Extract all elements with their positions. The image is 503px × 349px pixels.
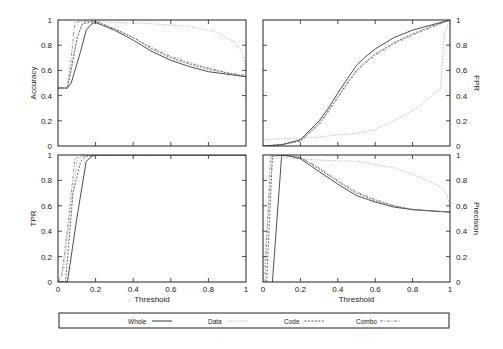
- panel-bottom-right: 00.20.40.60.8100.20.40.60.81ThresholdPre…: [261, 151, 481, 304]
- series-line-whole: [58, 155, 246, 282]
- y-tick-label: 0: [456, 278, 461, 287]
- chart-canvas: 00.20.40.60.81Accuracy00.20.40.60.81FPR0…: [0, 0, 503, 349]
- series-line-data: [263, 158, 450, 283]
- legend-label: Whole: [128, 318, 147, 325]
- panel-top-left: 00.20.40.60.81Accuracy: [29, 16, 246, 151]
- y-tick-label: 0.2: [41, 253, 53, 262]
- series-group: [58, 21, 246, 88]
- series-line-whole: [272, 155, 450, 282]
- panel-bottom-left: 00.20.40.60.8100.20.40.60.81ThresholdTPR: [29, 151, 249, 304]
- legend-label: Code: [284, 318, 300, 325]
- x-axis-label: Threshold: [339, 295, 375, 304]
- y-tick-label: 0.4: [456, 227, 468, 236]
- y-tick-label: 0.6: [41, 202, 53, 211]
- y-axis-label: TPR: [29, 210, 38, 226]
- y-tick-label: 0.8: [456, 41, 468, 50]
- x-tick-label: 0: [261, 285, 266, 294]
- y-tick-label: 1: [456, 151, 461, 160]
- y-tick-label: 0.2: [41, 117, 53, 126]
- x-tick-label: 0.8: [407, 285, 419, 294]
- x-axis-label: Threshold: [134, 295, 170, 304]
- x-tick-label: 0.6: [370, 285, 382, 294]
- panels: 00.20.40.60.81Accuracy00.20.40.60.81FPR0…: [29, 16, 481, 304]
- series-group: [263, 20, 450, 146]
- plot-frame: [263, 155, 450, 282]
- series-line-data: [263, 20, 450, 140]
- y-tick-label: 0.8: [456, 176, 468, 185]
- series-line-code: [263, 20, 450, 146]
- x-tick-label: 1: [448, 285, 453, 294]
- y-axis-label: Accuracy: [29, 67, 38, 100]
- figure: 00.20.40.60.81Accuracy00.20.40.60.81FPR0…: [0, 0, 503, 349]
- y-tick-label: 0.8: [41, 176, 53, 185]
- y-tick-label: 0.6: [456, 66, 468, 75]
- y-tick-label: 0.4: [456, 92, 468, 101]
- y-tick-label: 0.6: [41, 66, 53, 75]
- plot-frame: [263, 20, 450, 146]
- legend-label: Data: [208, 318, 222, 325]
- plot-frame: [58, 155, 246, 282]
- y-tick-label: 1: [456, 16, 461, 25]
- legend-frame: [59, 313, 449, 328]
- series-group: [58, 155, 246, 282]
- series-line-data: [58, 155, 246, 282]
- x-tick-label: 0.4: [128, 285, 140, 294]
- series-line-whole: [263, 20, 450, 146]
- series-line-combo: [58, 155, 246, 282]
- x-tick-label: 0.2: [90, 285, 102, 294]
- y-tick-label: 1: [48, 16, 53, 25]
- series-line-combo: [263, 20, 450, 146]
- y-tick-label: 0: [48, 278, 53, 287]
- series-line-whole: [58, 23, 246, 89]
- y-tick-label: 0.4: [41, 227, 53, 236]
- legend-label: Combo: [356, 318, 377, 325]
- y-tick-label: 0: [456, 142, 461, 151]
- x-tick-label: 0.8: [203, 285, 215, 294]
- y-tick-label: 0.8: [41, 41, 53, 50]
- series-line-code: [58, 155, 246, 282]
- legend: WholeDataCodeCombo: [59, 313, 449, 328]
- y-axis-label: Precision: [472, 202, 481, 235]
- y-tick-label: 1: [48, 151, 53, 160]
- x-tick-label: 0.2: [295, 285, 307, 294]
- panel-top-right: 00.20.40.60.81FPR: [263, 16, 481, 151]
- y-tick-label: 0.6: [456, 202, 468, 211]
- y-tick-label: 0.4: [41, 92, 53, 101]
- series-line-code: [267, 155, 450, 282]
- x-tick-label: 0: [56, 285, 61, 294]
- series-group: [263, 155, 450, 282]
- y-tick-label: 0.2: [456, 117, 468, 126]
- x-tick-label: 0.4: [332, 285, 344, 294]
- y-axis-label: FPR: [472, 75, 481, 91]
- series-line-combo: [265, 155, 450, 282]
- x-tick-label: 1: [244, 285, 249, 294]
- y-tick-label: 0: [48, 142, 53, 151]
- plot-frame: [58, 20, 246, 146]
- y-tick-label: 0.2: [456, 253, 468, 262]
- x-tick-label: 0.6: [165, 285, 177, 294]
